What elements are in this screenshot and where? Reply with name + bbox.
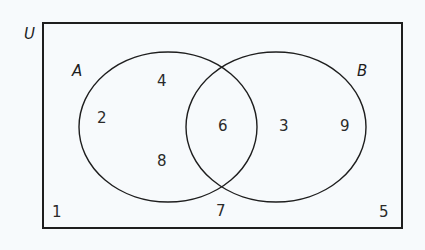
element-neither: 1 <box>52 203 62 221</box>
set-b-label: B <box>357 62 367 80</box>
element-neither: 5 <box>379 203 389 221</box>
venn-diagram: U A B 4 2 8 6 3 9 1 7 5 <box>0 0 425 250</box>
element-b-only: 3 <box>279 117 289 135</box>
universe-label: U <box>24 25 35 43</box>
element-a-only: 4 <box>157 72 167 90</box>
set-b-circle <box>186 52 366 202</box>
set-a-label: A <box>71 62 82 80</box>
element-a-and-b: 6 <box>218 117 228 135</box>
element-a-only: 2 <box>97 109 107 127</box>
element-a-only: 8 <box>157 152 167 170</box>
element-b-only: 9 <box>340 117 350 135</box>
set-a-circle <box>79 52 257 202</box>
element-neither: 7 <box>216 202 226 220</box>
